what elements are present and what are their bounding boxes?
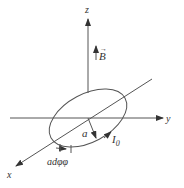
current-direction-arrow — [104, 132, 111, 138]
current-label: I0 — [111, 133, 120, 148]
radius-label: a — [82, 127, 88, 139]
line-element-arrow — [56, 148, 66, 149]
x-axis — [16, 79, 152, 166]
line-element-label: adφφ — [47, 156, 69, 167]
current-loop-diagram: z B → y x a I0 adφφ — [0, 0, 184, 188]
y-axis-label: y — [165, 113, 171, 124]
z-axis-label: z — [84, 4, 89, 15]
x-axis-label: x — [6, 169, 12, 180]
b-field-vector-mark: → — [100, 45, 107, 53]
current-label-subscript: 0 — [116, 139, 120, 148]
radius-arrow — [88, 118, 96, 138]
